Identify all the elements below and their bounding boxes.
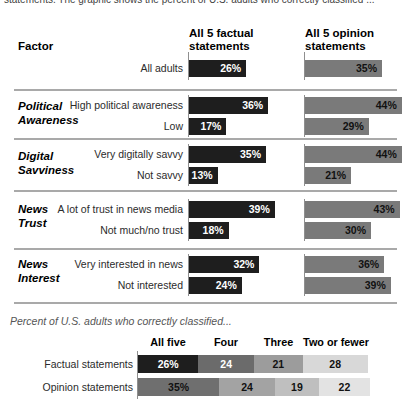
- row-label: High political awareness: [0, 97, 183, 114]
- section-divider: [14, 302, 397, 304]
- bar-opinion: 36%: [305, 256, 384, 273]
- factual-column-header: All 5 factual statements: [189, 27, 284, 53]
- stacked-header-two-or-fewer: Two or fewer: [296, 336, 376, 348]
- row-label: Not savvy: [0, 167, 183, 184]
- row-label: Low: [0, 118, 183, 135]
- intro-text: statements. The graphic shows the percen…: [4, 0, 409, 5]
- bar-opinion: 39%: [305, 277, 391, 294]
- bar-factual-all-adults: 26%: [189, 60, 246, 77]
- bar-opinion: 44%: [305, 97, 402, 114]
- intro-text-cropped: statements. The graphic shows the percen…: [4, 0, 409, 8]
- stacked-row-label-opinion: Opinion statements: [0, 378, 133, 396]
- row-label: Very interested in news: [0, 256, 183, 273]
- bar-factual: 13%: [189, 167, 218, 184]
- bar-factual: 32%: [189, 256, 259, 273]
- segment-factual-all-five: 26%: [138, 355, 198, 373]
- stacked-chart-title: Percent of U.S. adults who correctly cla…: [10, 315, 232, 327]
- bar-opinion: 21%: [305, 167, 351, 184]
- section-divider: [14, 248, 397, 250]
- stacked-bar-factual: 26% 24 21 28: [138, 355, 368, 373]
- segment-factual-two-or-fewer: 28: [303, 355, 368, 373]
- row-label: Not much/no trust: [0, 222, 183, 239]
- stacked-bar-opinion: 35% 24 19 22: [138, 378, 370, 396]
- bar-factual: 18%: [189, 222, 229, 239]
- section-divider: [14, 138, 397, 140]
- row-label: Very digitally savvy: [0, 146, 183, 163]
- bar-factual: 24%: [189, 277, 242, 294]
- segment-factual-four: 24: [198, 355, 254, 373]
- row-label-all-adults: All adults: [0, 60, 183, 77]
- bar-opinion: 43%: [305, 201, 400, 218]
- bar-opinion: 30%: [305, 222, 371, 239]
- bar-factual: 17%: [189, 118, 226, 135]
- segment-opinion-all-five: 35%: [138, 378, 219, 396]
- factor-column-header: Factor: [18, 40, 53, 52]
- segment-opinion-three: 19: [275, 378, 319, 396]
- bar-opinion: 44%: [305, 146, 402, 163]
- segment-factual-three: 21: [254, 355, 303, 373]
- section-divider: [14, 190, 397, 192]
- row-label: Not interested: [0, 277, 183, 294]
- bar-opinion: 29%: [305, 118, 369, 135]
- bar-factual: 36%: [189, 97, 268, 114]
- segment-opinion-two-or-fewer: 22: [319, 378, 370, 396]
- bar-factual: 35%: [189, 146, 266, 163]
- row-label: A lot of trust in news media: [0, 201, 183, 218]
- section-divider: [14, 89, 397, 91]
- stacked-row-label-factual: Factual statements: [0, 355, 133, 373]
- bar-opinion-all-adults: 35%: [305, 60, 382, 77]
- stacked-header-all-five: All five: [138, 336, 198, 348]
- stacked-header-four: Four: [198, 336, 254, 348]
- opinion-column-header: All 5 opinion statements: [305, 27, 400, 53]
- bar-factual: 39%: [189, 201, 275, 218]
- segment-opinion-four: 24: [219, 378, 275, 396]
